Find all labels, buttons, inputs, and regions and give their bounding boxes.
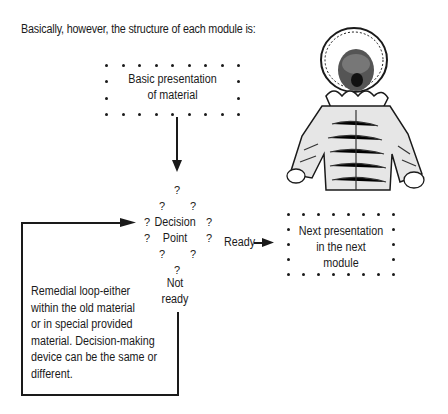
question-mark: ? [190,248,196,260]
not-ready-line1: Not [154,275,197,291]
remedial-line: different. [31,366,157,383]
question-mark: ? [159,200,165,212]
down-arrow-shaft [176,117,178,163]
question-mark: ? [174,184,180,196]
basic-presentation-box: Basic presentation of material [105,64,240,116]
loop-top [21,222,123,224]
decision-word: Decision [149,214,201,230]
not-ready-line2: ready [154,291,197,307]
remedial-line: material. Decision-making [31,333,157,350]
ready-arrow-head-icon [262,238,274,247]
remedial-line: Remedial loop-either [31,283,157,300]
question-mark: ? [206,216,212,228]
question-mark: ? [206,232,212,244]
question-mark: ? [190,200,196,212]
loop-arrow-head-icon [120,218,136,227]
remedial-note: Remedial loop-either within the old mate… [31,283,157,382]
loop-bottom [21,394,178,396]
next-box-line2: in the next [295,239,388,255]
remedial-line: or in special provided [31,316,157,333]
question-mark: ? [159,248,165,260]
loop-down-from-not-ready [177,312,179,396]
next-box-line3: module [295,255,388,271]
down-arrow-head-icon [172,160,182,172]
next-box-line1: Next presentation [295,223,388,239]
point-word: Point [149,230,201,246]
loop-left [21,222,23,396]
remedial-line: device can be the same or [31,349,157,366]
next-presentation-box: Next presentation in the next module [287,213,395,276]
intro-text: Basically, however, the structure of eac… [21,22,256,36]
remedial-line: within the old material [31,300,157,317]
basic-box-line2: of material [114,87,230,103]
basic-box-line1: Basic presentation [114,71,230,87]
ready-label: Ready [224,235,255,249]
crying-child-illustration [282,14,448,194]
